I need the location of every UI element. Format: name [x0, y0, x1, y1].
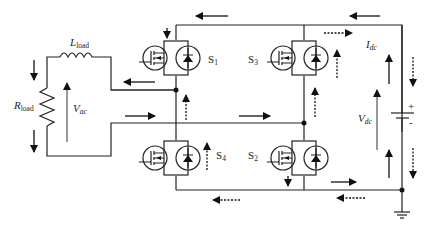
s4-label: S4 — [216, 149, 226, 163]
s2-label: S2 — [248, 149, 258, 163]
switch-s2 — [267, 141, 328, 175]
resistor-label: Rload — [13, 99, 34, 113]
s3-label: S3 — [248, 53, 258, 67]
h-bridge-circuit-diagram: Lload Rload Vac — [0, 0, 429, 233]
vac-label: Vac — [73, 102, 87, 116]
s1-label: S1 — [208, 53, 218, 67]
vdc-label: Vdc — [358, 112, 372, 126]
idc-label: Idc — [365, 38, 377, 52]
switch-s1 — [139, 41, 200, 75]
battery-plus: + — [408, 100, 414, 112]
switch-s4 — [139, 141, 200, 175]
switch-s3 — [267, 41, 328, 75]
load-circuit — [40, 53, 175, 156]
inductor-label: Lload — [69, 36, 89, 50]
ground-icon — [394, 212, 410, 218]
battery-minus: - — [409, 116, 413, 128]
